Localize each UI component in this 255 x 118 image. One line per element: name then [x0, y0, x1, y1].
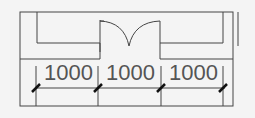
dimension-label-2: 1000: [106, 60, 155, 85]
door-swing-right: [129, 21, 160, 46]
door-swing-left: [100, 21, 129, 46]
dimension-label-1: 1000: [44, 60, 93, 85]
floor-plan-drawing: 1000 1000 1000: [0, 0, 255, 118]
left-cabinet: [37, 12, 100, 52]
right-cabinet: [160, 12, 223, 43]
dimension-label-3: 1000: [169, 60, 218, 85]
